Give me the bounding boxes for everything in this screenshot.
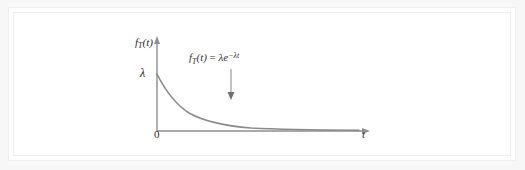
y-axis-tick-lambda: λ xyxy=(140,67,145,79)
formula-equals-sign: = xyxy=(207,51,219,63)
formula-exponent: −λt xyxy=(228,51,239,60)
exponential-pdf-curve xyxy=(157,74,359,130)
x-axis-label: t xyxy=(362,129,365,140)
pdf-formula-annotation: fT(t) = λe−λt xyxy=(189,52,239,65)
y-axis-label: fT(t) xyxy=(135,37,153,50)
plot-canvas xyxy=(13,12,511,156)
origin-label: 0 xyxy=(154,129,160,140)
exponential-pdf-figure: fT(t) λ 0 t fT(t) = λe−λt xyxy=(13,12,511,156)
figure-page: fT(t) λ 0 t fT(t) = λe−λt xyxy=(0,0,525,170)
y-axis-arrowhead xyxy=(154,36,160,44)
y-axis-label-argument: (t) xyxy=(142,36,152,48)
annotation-arrow-head xyxy=(228,92,235,100)
formula-lhs-argument: (t) xyxy=(196,51,206,63)
